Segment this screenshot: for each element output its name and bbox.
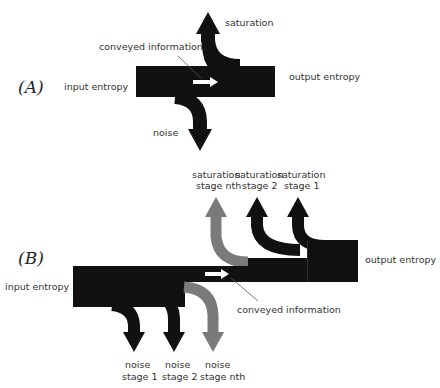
noise-nth-l2: stage nth: [200, 371, 245, 382]
panel-a-noise-label: noise: [153, 127, 178, 138]
panel-a-output-label: output entropy: [289, 71, 360, 82]
panel-b: (B) input entropy output entropy conveye…: [5, 169, 436, 382]
panel-a-noise-arrow-icon: [175, 97, 212, 151]
noise-nth-l1: noise: [205, 359, 230, 370]
noise-1-l2: stage 1: [122, 371, 157, 382]
noise-2-l2: stage 2: [162, 371, 197, 382]
sat-nth-l2: stage nth: [196, 180, 241, 191]
entropy-flow-diagram: (A) input entropy output entropy conveye…: [0, 0, 440, 388]
sat-1-l2: stage 1: [284, 180, 319, 191]
noise-2-l1: noise: [165, 359, 190, 370]
sat-nth-l1: saturation: [192, 169, 240, 180]
panel-b-conveyed-label: conveyed information: [237, 304, 341, 315]
noise-1-l1: noise: [125, 359, 150, 370]
panel-b-label: (B): [18, 248, 44, 268]
panel-b-saturation-nth-arrow-icon: [205, 197, 248, 262]
panel-b-output-label: output entropy: [365, 254, 436, 265]
sat-1-l1: saturation: [277, 169, 325, 180]
panel-a-input-label: input entropy: [64, 81, 129, 92]
panel-a-conveyed-label: conveyed information: [99, 41, 203, 52]
panel-b-input-label: input entropy: [5, 281, 70, 292]
panel-b-saturation-labels: saturation stage nth saturation stage 2 …: [192, 169, 325, 191]
panel-a-saturation-label: saturation: [225, 17, 273, 28]
panel-b-noise-labels: noise stage 1 noise stage 2 noise stage …: [122, 359, 245, 382]
panel-b-noise-1-arrow-icon: [112, 305, 145, 352]
panel-a: (A) input entropy output entropy conveye…: [18, 12, 360, 151]
panel-b-noise-nth-arrow-icon: [184, 287, 224, 352]
panel-b-saturation-2-arrow-icon: [246, 197, 300, 250]
sat-2-l2: stage 2: [242, 180, 277, 191]
panel-b-saturation-1-arrow-icon: [287, 197, 325, 246]
panel-a-label: (A): [18, 77, 44, 97]
